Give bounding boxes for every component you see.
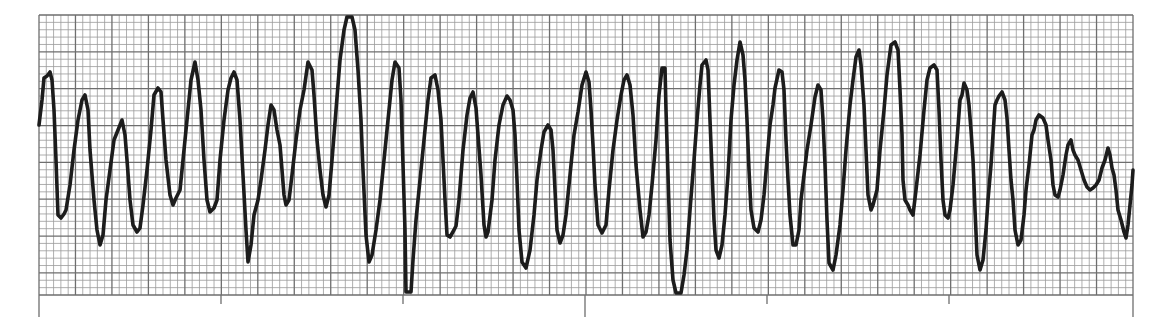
ecg-strip (0, 0, 1167, 327)
